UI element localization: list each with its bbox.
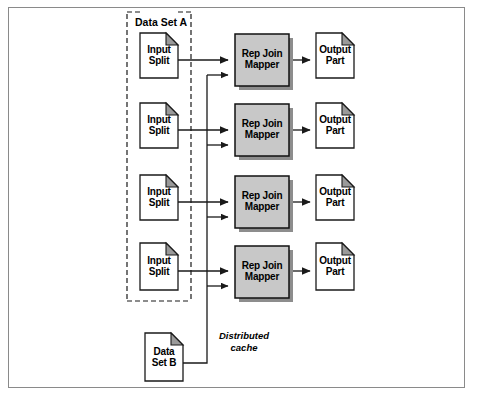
diagram-canvas: Data Set A Input Split Rep Join Mapper O… xyxy=(0,0,479,401)
output-part-page-2 xyxy=(316,103,354,148)
rep-join-mapper-box-1 xyxy=(235,34,293,90)
output-part-page-1 xyxy=(316,33,354,78)
rep-join-mapper-box-2 xyxy=(235,104,293,160)
rep-join-mapper-box-3 xyxy=(235,176,293,232)
output-part-page-4 xyxy=(316,243,354,290)
input-split-page-1 xyxy=(140,33,178,78)
input-split-page-4 xyxy=(140,243,178,290)
distributed-cache-label-line2: cache xyxy=(211,342,277,354)
distributed-cache-edge-label: Distributed cache xyxy=(211,330,277,354)
distributed-cache-label-line1: Distributed xyxy=(211,330,277,342)
edge-distributed-cache-trunk xyxy=(183,75,207,363)
rep-join-mapper-box-4 xyxy=(235,246,293,302)
input-split-page-2 xyxy=(140,103,178,148)
data-set-b-page xyxy=(145,333,183,381)
data-set-a-label: Data Set A xyxy=(135,16,187,28)
input-split-page-3 xyxy=(140,175,178,220)
output-part-page-3 xyxy=(316,175,354,220)
